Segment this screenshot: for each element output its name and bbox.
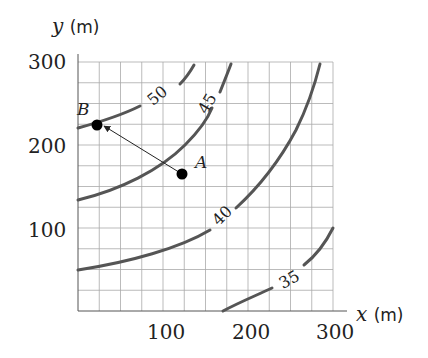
x-tick-200: 200 <box>232 320 270 344</box>
x-axis-label: x (m) <box>356 302 403 326</box>
y-axis-var: y <box>52 14 63 38</box>
y-tick-200: 200 <box>28 134 66 158</box>
x-tick-100: 100 <box>147 320 185 344</box>
y-axis-unit: (m) <box>70 17 100 37</box>
y-axis-label: y (m) <box>52 14 100 38</box>
x-axis-var: x <box>356 302 367 326</box>
point-a-label: A <box>195 152 207 172</box>
x-tick-300: 300 <box>316 320 354 344</box>
point-b-label: B <box>77 99 90 119</box>
point-b-marker <box>92 120 103 131</box>
y-tick-300: 300 <box>28 50 66 74</box>
displacement-arrow <box>104 126 182 174</box>
point-a-marker <box>177 169 188 180</box>
contour-50 <box>78 65 194 128</box>
axes <box>78 54 347 311</box>
x-axis-unit: (m) <box>374 305 404 325</box>
y-tick-100: 100 <box>28 218 66 242</box>
